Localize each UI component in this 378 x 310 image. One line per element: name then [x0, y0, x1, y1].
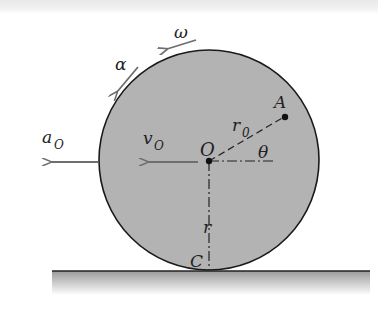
label-point-a: A [272, 92, 286, 112]
label-r0-subscript: 0 [242, 126, 250, 140]
wheel-diagram: ω α a O v O O A r 0 θ r C [0, 0, 378, 310]
point-a [282, 114, 288, 120]
label-r: r [203, 217, 212, 237]
label-v: v [143, 128, 153, 148]
label-center-o: O [200, 139, 215, 160]
label-a: a [42, 127, 52, 147]
ground-surface [52, 271, 370, 295]
label-contact-c: C [190, 251, 203, 271]
label-omega: ω [174, 22, 188, 42]
ground [52, 271, 370, 295]
label-v-subscript: O [154, 139, 164, 153]
label-alpha: α [115, 54, 127, 74]
label-r0: r [232, 115, 241, 135]
label-a-subscript: O [54, 138, 64, 152]
label-theta: θ [258, 142, 268, 162]
